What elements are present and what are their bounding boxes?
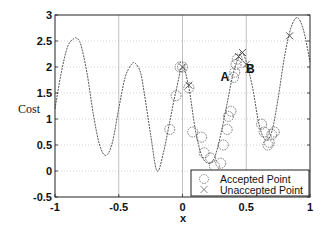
accepted-point-marker xyxy=(269,127,279,137)
annotation-label: A xyxy=(220,70,229,84)
accepted-point-marker xyxy=(222,124,232,134)
accepted-point-marker xyxy=(197,132,207,142)
x-tick-label: -0.5 xyxy=(109,201,128,213)
unaccepted-point-marker xyxy=(239,49,246,56)
y-tick-label: 0 xyxy=(46,165,52,177)
x-tick-label: 0.5 xyxy=(239,201,254,213)
accepted-point-marker xyxy=(165,124,175,134)
cost-chart: -0.500.511.522.53 -1-0.500.51 Cost x AB … xyxy=(0,0,326,234)
y-tick-label: 3 xyxy=(46,9,52,21)
y-tick-label: 2.5 xyxy=(37,35,52,47)
x-tick-label: -1 xyxy=(50,201,60,213)
y-tick-label: 2 xyxy=(46,61,52,73)
accepted-point-marker xyxy=(206,153,216,163)
y-tick-label: 1.5 xyxy=(37,87,52,99)
legend: Accepted Point Unaccepted Point xyxy=(191,170,309,196)
x-tick-label: 1 xyxy=(307,201,313,213)
accepted-point-marker xyxy=(216,158,226,168)
annotations: AB xyxy=(220,62,255,85)
unaccepted-point-marker xyxy=(286,32,293,39)
y-axis-label: Cost xyxy=(18,102,41,116)
x-axis-label: x xyxy=(180,212,187,224)
legend-unaccepted-label: Unaccepted Point xyxy=(220,184,303,196)
y-tick-label: 0.5 xyxy=(37,139,52,151)
y-tick-label: 1 xyxy=(46,113,52,125)
data-markers xyxy=(165,32,293,171)
accepted-point-marker xyxy=(226,106,236,116)
annotation-label: B xyxy=(246,62,255,76)
